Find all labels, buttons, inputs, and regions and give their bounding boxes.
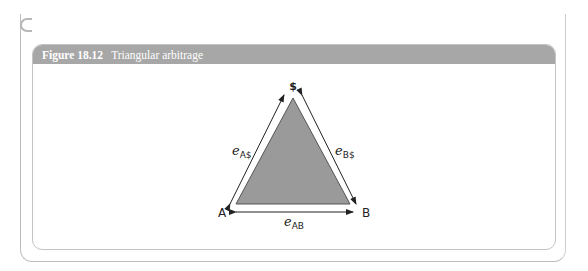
edge-label-b-dollar: eB$ [335, 143, 355, 160]
arbitrage-triangle [236, 98, 350, 204]
vertex-b: B [362, 206, 370, 220]
edge-label-a-dollar: eA$ [232, 143, 252, 160]
vertex-dollar: $ [289, 80, 297, 93]
edge-label-a-b: eAB [284, 214, 304, 231]
triangular-arbitrage-diagram: $ A B eA$ eB$ eAB [0, 0, 588, 271]
vertex-a: A [218, 206, 227, 220]
